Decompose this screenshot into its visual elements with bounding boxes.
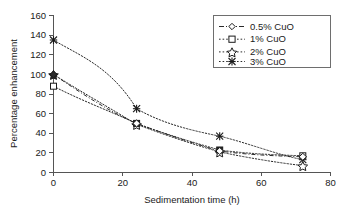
- series-line-0-5pct-cuo: [54, 74, 303, 156]
- series-line-2pct-cuo: [54, 74, 303, 165]
- x-tick-label-60: 60: [256, 177, 267, 188]
- x-tick-label-40: 40: [187, 177, 198, 188]
- data-point-1pct-t0: [51, 83, 57, 89]
- y-tick-label-120: 120: [30, 49, 46, 60]
- series-line-1pct-cuo: [54, 86, 303, 156]
- legend-label-0-5pct-cuo: 0.5% CuO: [250, 21, 294, 32]
- series-markers-2pct-cuo: [49, 70, 308, 170]
- legend-square-icon: [229, 36, 235, 42]
- x-axis-title: Sedimentation time (h): [144, 194, 240, 205]
- y-tick-label-80: 80: [35, 88, 46, 99]
- y-tick-label-0: 0: [41, 167, 46, 178]
- x-tick-labels: 0 20 40 60 80: [51, 177, 336, 188]
- data-point-3pct-t24: [133, 105, 140, 113]
- y-tick-label-160: 160: [30, 10, 46, 21]
- y-tick-label-100: 100: [30, 69, 46, 80]
- y-axis-title: Percentage enhancement: [8, 39, 19, 148]
- x-tick-label-20: 20: [118, 177, 129, 188]
- data-point-3pct-t0: [50, 36, 57, 44]
- data-point-3pct-t48: [216, 132, 223, 140]
- series-markers-0-5pct-cuo: [50, 71, 307, 160]
- x-tick-label-0: 0: [51, 177, 56, 188]
- y-tick-labels: 0 20 40 60 80 100 120 140 160: [30, 10, 46, 178]
- chart-legend: 0.5% CuO 1% CuO 2% CuO: [214, 16, 331, 68]
- legend-cross-icon: [228, 58, 235, 66]
- y-tick-label-60: 60: [35, 108, 46, 119]
- legend-label-1pct-cuo: 1% CuO: [250, 33, 286, 44]
- percentage-enhancement-line-chart: 0 20 40 60 80 100 120 140 160 0 20 40 60…: [0, 0, 344, 216]
- series-markers-1pct-cuo: [51, 83, 306, 159]
- x-tick-label-80: 80: [325, 177, 336, 188]
- y-tick-label-20: 20: [35, 147, 46, 158]
- y-tick-label-140: 140: [30, 29, 46, 40]
- y-tick-label-40: 40: [35, 127, 46, 138]
- chart-figure: 0 20 40 60 80 100 120 140 160 0 20 40 60…: [0, 0, 344, 216]
- legend-label-3pct-cuo: 3% CuO: [250, 56, 286, 67]
